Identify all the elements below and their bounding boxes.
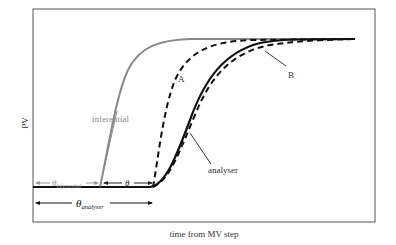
curve-b <box>153 39 355 187</box>
curve-b-label: B <box>288 70 294 80</box>
theta-label: θ <box>125 178 130 188</box>
analyser-label: analyser <box>208 165 238 175</box>
x-axis-label: time from MV step <box>169 229 239 239</box>
inferential-label: inferential <box>92 114 129 124</box>
y-axis-label: PV <box>20 117 30 129</box>
curve-a <box>153 39 355 187</box>
b-leader <box>265 51 286 66</box>
theta-analyser-label: θanalyser <box>76 197 104 210</box>
analyser-leader <box>190 133 211 164</box>
curve-a-label: A <box>178 74 185 84</box>
theta-inferential-label: θinferential <box>52 178 82 189</box>
step-response-diagram: PV time from MV step inferential A B ana… <box>0 0 396 245</box>
plot-frame <box>33 9 375 222</box>
analyser-curve <box>33 39 355 187</box>
